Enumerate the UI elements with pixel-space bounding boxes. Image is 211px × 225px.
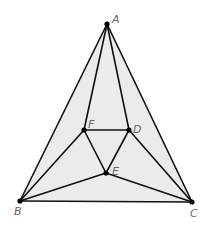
point-d — [126, 127, 131, 132]
point-b — [17, 198, 22, 203]
point-e — [103, 170, 108, 175]
label-e: E — [112, 165, 119, 178]
point-a — [104, 21, 109, 26]
label-c: C — [190, 207, 198, 220]
label-f: F — [88, 118, 95, 131]
point-f — [81, 127, 86, 132]
label-d: D — [133, 123, 141, 136]
label-b: B — [14, 205, 22, 218]
point-c — [189, 199, 194, 204]
label-a: A — [111, 13, 120, 26]
triangle-diagram: A B C D E F — [0, 0, 211, 225]
segment-bc — [20, 201, 192, 202]
